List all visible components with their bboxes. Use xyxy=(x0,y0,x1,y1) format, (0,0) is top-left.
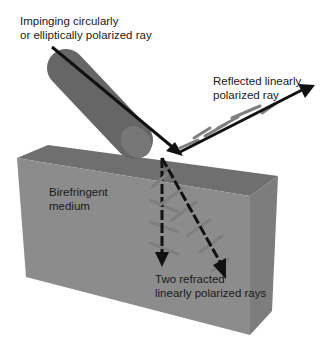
reflected-label-line1: Reflected linearly xyxy=(213,74,301,88)
block-side-face xyxy=(250,176,278,335)
refracted-label-line1: Two refracted xyxy=(155,272,266,286)
incident-ray-label: Impinging circularly or elliptically pol… xyxy=(20,14,152,42)
refracted-rays-label: Two refracted linearly polarized rays xyxy=(155,272,266,300)
medium-label-line2: medium xyxy=(49,199,108,213)
incident-label-line1: Impinging circularly xyxy=(20,14,152,28)
reflected-ray-label: Reflected linearly polarized ray xyxy=(213,74,301,102)
reflected-label-line2: polarized ray xyxy=(213,88,301,102)
medium-label-line1: Birefringent xyxy=(49,185,108,199)
medium-label: Birefringent medium xyxy=(49,185,108,213)
refracted-label-line2: linearly polarized rays xyxy=(155,286,266,300)
incident-label-line2: or elliptically polarized ray xyxy=(20,28,152,42)
